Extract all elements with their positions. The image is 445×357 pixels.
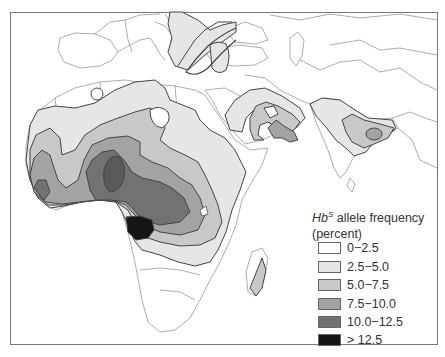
legend-swatch [318,261,341,273]
legend-title: HbS allele frequency [312,207,437,226]
map-legend: HbS allele frequency (percent) 0−2.5 2.5… [312,207,437,242]
legend-subtitle: (percent) [312,226,437,242]
legend-item-5.0-7.5: 5.0−7.5 [318,278,389,292]
legend-item-2.5-5.0: 2.5−5.0 [318,260,389,274]
legend-label: > 12.5 [347,333,382,347]
legend-item-7.5-10.0: 7.5−10.0 [318,297,396,311]
legend-label: 2.5−5.0 [347,260,389,274]
legend-swatch [318,242,341,254]
legend-label: 10.0−12.5 [347,315,403,329]
legend-item-10.0-12.5: 10.0−12.5 [318,315,403,329]
legend-swatch [318,279,341,291]
legend-swatch [318,334,341,346]
legend-label: 7.5−10.0 [347,297,396,311]
legend-label: 0−2.5 [347,241,379,255]
legend-swatch [318,316,341,328]
legend-item-0-2.5: 0−2.5 [318,241,379,255]
legend-item-over-12.5: > 12.5 [318,333,382,347]
legend-swatch [318,298,341,310]
legend-label: 5.0−7.5 [347,278,389,292]
